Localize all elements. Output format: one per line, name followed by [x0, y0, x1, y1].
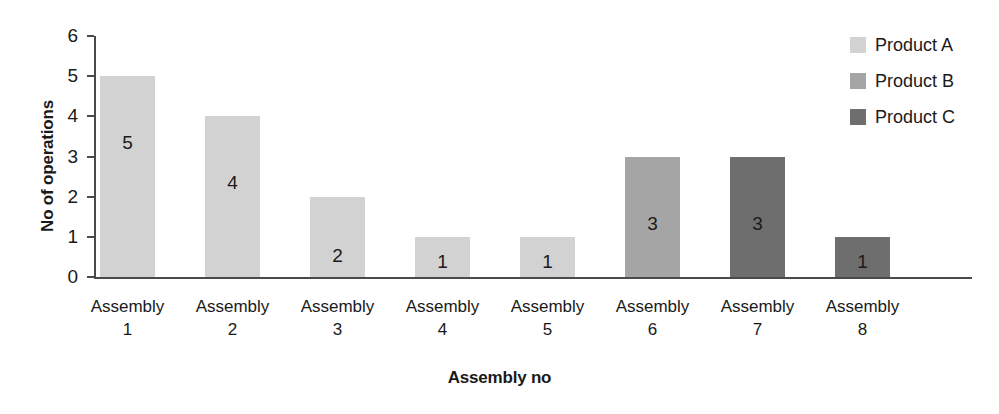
x-axis-category-name: Assembly [91, 297, 165, 316]
bar-value-label: 1 [835, 251, 890, 273]
x-axis-category-label: Assembly8 [807, 296, 919, 342]
x-axis-category-label: Assembly3 [282, 296, 394, 342]
y-axis-tick [87, 276, 94, 278]
legend-swatch-icon [850, 37, 866, 53]
y-axis-line [94, 36, 96, 278]
bar-chart: No of operations 6543210 54211331 Assemb… [0, 0, 999, 414]
x-axis-category-number: 7 [702, 319, 814, 342]
y-axis-tick [87, 236, 94, 238]
x-axis-category-name: Assembly [406, 297, 480, 316]
bar-value-label: 4 [205, 172, 260, 194]
bar-value-label: 2 [310, 245, 365, 267]
y-axis-tick [87, 196, 94, 198]
y-axis-tick-label: 4 [52, 105, 78, 127]
x-axis-category-label: Assembly1 [72, 296, 184, 342]
x-axis-category-number: 6 [597, 319, 709, 342]
y-axis-tick-label: 0 [52, 266, 78, 288]
y-axis-tick [87, 115, 94, 117]
y-axis-tick [87, 156, 94, 158]
bar-value-label: 3 [625, 213, 680, 235]
bar-value-label: 5 [100, 132, 155, 154]
x-axis-title: Assembly no [0, 368, 999, 388]
x-axis-line [94, 277, 972, 279]
x-axis-category-number: 2 [177, 319, 289, 342]
legend-swatch-icon [850, 73, 866, 89]
x-axis-category-number: 1 [72, 319, 184, 342]
x-axis-category-label: Assembly6 [597, 296, 709, 342]
x-axis-category-label: Assembly5 [492, 296, 604, 342]
legend-label: Product C [875, 102, 955, 132]
x-axis-category-label: Assembly4 [387, 296, 499, 342]
bar-value-label: 3 [730, 213, 785, 235]
x-axis-category-name: Assembly [196, 297, 270, 316]
y-axis-tick [87, 35, 94, 37]
x-axis-category-name: Assembly [511, 297, 585, 316]
bar-value-label: 1 [415, 251, 470, 273]
y-axis-tick-label: 6 [52, 25, 78, 47]
x-axis-category-label: Assembly2 [177, 296, 289, 342]
bar-value-label: 1 [520, 251, 575, 273]
legend-label: Product B [875, 66, 954, 96]
x-axis-category-name: Assembly [616, 297, 690, 316]
x-axis-category-number: 3 [282, 319, 394, 342]
x-axis-category-number: 4 [387, 319, 499, 342]
legend-label: Product A [875, 30, 953, 60]
x-axis-category-name: Assembly [301, 297, 375, 316]
y-axis-tick [87, 75, 94, 77]
x-axis-category-label: Assembly7 [702, 296, 814, 342]
bar [205, 116, 260, 277]
x-axis-category-number: 5 [492, 319, 604, 342]
y-axis-tick-label: 5 [52, 65, 78, 87]
y-axis-tick-label: 2 [52, 186, 78, 208]
x-axis-category-name: Assembly [826, 297, 900, 316]
legend-swatch-icon [850, 109, 866, 125]
x-axis-category-number: 8 [807, 319, 919, 342]
y-axis-tick-label: 1 [52, 226, 78, 248]
bar [100, 76, 155, 277]
y-axis-tick-label: 3 [52, 146, 78, 168]
x-axis-category-name: Assembly [721, 297, 795, 316]
